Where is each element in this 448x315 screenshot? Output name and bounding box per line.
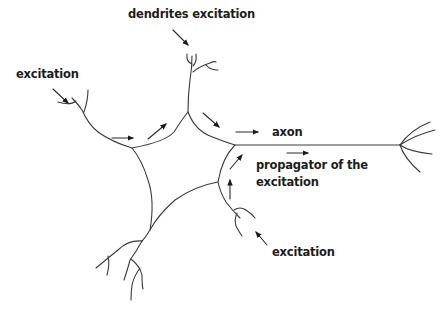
cell-body [132,112,235,230]
dendrite-top [187,54,218,112]
dendrite-bottom-left [96,230,150,300]
arrow-excitation-left [53,89,68,103]
label-excitation-left: excitation [16,66,79,83]
label-dendrites-excitation: dendrites excitation [128,6,255,23]
dendrite-bottom-right [218,182,255,236]
label-propagator-line1: propagator of the [256,157,368,174]
arrow-dendrites-excitation [173,30,188,45]
arrow-soma-diagonal [148,124,166,139]
arrow-top-right [203,113,219,127]
neuron-diagram [0,0,448,315]
dendrite-left [58,90,132,148]
arrow-excitation-bottom [256,232,267,245]
axon-terminals [400,122,435,172]
excitation-arrows [53,30,308,245]
arrow-propagator-diagonal [230,155,242,169]
label-excitation-bottom: excitation [272,244,335,261]
label-axon: axon [272,124,302,141]
label-propagator-line2: excitation [256,174,368,191]
label-propagator: propagator of the excitation [256,157,368,191]
